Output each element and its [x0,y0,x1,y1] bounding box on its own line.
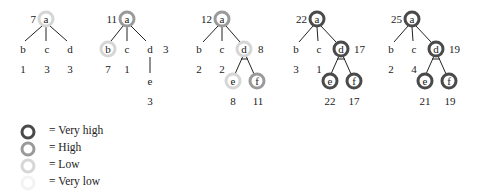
tree-3-node-a: a [220,13,225,25]
tree-4-node-c: c [317,43,322,55]
tree-5-node-f: f [447,75,451,87]
tree-4-node-e: e [328,75,333,87]
tree-4-f-value: 17 [349,95,361,107]
legend-very-low-label: = Very low [49,175,100,187]
tree-1-d-value: 3 [67,63,73,75]
tree-2-root-value: 11 [106,13,117,25]
legend-high-icon [22,143,34,155]
tree-4-root-value: 22 [296,13,307,25]
tree-2-node-e: e [148,75,153,87]
tree-2-node-c: c [125,43,130,55]
tree-5-f-value: 19 [445,95,457,107]
legend-low-icon [22,160,34,172]
tree-2-d-value: 3 [163,43,169,55]
tree-3-node-d: d [241,43,247,55]
tree-5-node-a: a [410,13,415,25]
tree-4-node-a: a [315,13,320,25]
tree-2-node-d: d [147,43,153,55]
tree-1-node-d: d [67,43,73,55]
tree-4-d-value: 17 [354,43,366,55]
tree-5-b-value: 2 [388,63,394,75]
tree-3-root-value: 12 [201,13,212,25]
tree-5-c-value: 4 [411,63,417,75]
tree-3-node-f: f [255,75,259,87]
tree-2-node-b: b [105,43,111,55]
tree-4-node-b: b [293,43,299,55]
tree-2-b-value: 7 [105,63,111,75]
tree-3-d-value: 8 [258,43,264,55]
tree-2-e-value: 3 [147,95,153,107]
tree-1-c-value: 3 [44,63,50,75]
tree-5-node-e: e [423,75,428,87]
tree-4-node-d: d [338,43,344,55]
tree-4-c-value: 1 [316,63,322,75]
tree-1-root-value: 7 [31,13,37,25]
tree-1-node-c: c [45,43,50,55]
tree-3-node-c: c [220,43,225,55]
tree-4-b-value: 3 [293,63,299,75]
tree-1-node-b: b [20,43,26,55]
tree-4-node-f: f [352,75,356,87]
tree-3-node-b: b [196,43,202,55]
legend-swatches [22,126,34,189]
tree-4: a 22 b c d 17 3 1 e f 22 17 [293,12,365,107]
tree-3-f-value: 11 [253,95,264,107]
tree-5: a 25 b c d 19 2 4 e f 21 19 [388,12,460,107]
legend-low-label: = Low [49,158,79,170]
tree-5-node-c: c [412,43,417,55]
tree-2-c-value: 1 [124,63,130,75]
tree-2-node-a: a [125,13,130,25]
tree-5-root-value: 25 [391,13,403,25]
tree-4-e-value: 22 [325,95,336,107]
tree-5-node-d: d [433,43,439,55]
tree-5-node-b: b [388,43,394,55]
legend-high-label: = High [49,141,81,153]
tree-2: a 11 b c d 3 7 1 e 3 [101,12,169,107]
tree-3-e-value: 8 [230,95,236,107]
legend-very-high-icon [22,126,34,138]
tree-3: a 12 b c d 8 2 2 e f 8 11 [196,12,264,107]
tree-1: a 7 b c d 1 3 3 [20,12,73,75]
tree-3-b-value: 2 [196,63,202,75]
tree-5-d-value: 19 [449,43,461,55]
tree-3-c-value: 2 [219,63,225,75]
legend-very-low-icon [22,177,34,189]
tree-1-node-a: a [44,13,49,25]
tree-5-e-value: 21 [420,95,431,107]
tree-3-node-e: e [231,75,236,87]
legend-very-high-label: = Very high [49,124,103,136]
tree-1-b-value: 1 [20,63,26,75]
